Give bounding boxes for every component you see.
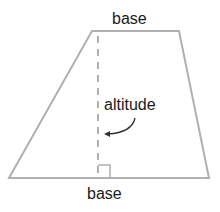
- curved-arrow-icon: [108, 118, 135, 134]
- bottom-base-label: base: [87, 186, 122, 202]
- top-base-label: base: [112, 11, 147, 27]
- altitude-label: altitude: [104, 97, 156, 113]
- right-angle-marker: [98, 165, 110, 178]
- trapezoid-diagram: base altitude base: [0, 0, 220, 212]
- arrowhead-icon: [104, 131, 110, 137]
